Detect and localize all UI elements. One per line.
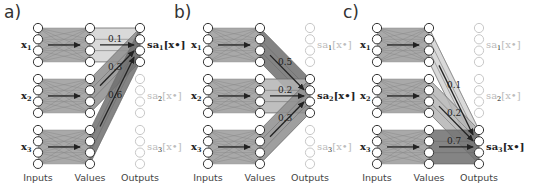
value-node bbox=[255, 125, 264, 134]
attention-weight-label: 0.7 bbox=[447, 136, 462, 146]
value-node bbox=[255, 148, 264, 157]
panel-b: b)0.50.20.3x1sa1[x•]x2sa2[x•]x3sa3[x•]In… bbox=[174, 2, 355, 183]
value-node bbox=[424, 74, 433, 83]
output-label: sa1[x•] bbox=[486, 39, 521, 52]
value-node bbox=[85, 108, 94, 117]
input-node bbox=[33, 108, 42, 117]
value-node bbox=[85, 159, 94, 168]
input-node bbox=[203, 97, 212, 106]
value-node bbox=[424, 86, 433, 95]
value-node bbox=[255, 46, 264, 55]
attention-weight-label: 0.5 bbox=[278, 57, 293, 67]
column-label: Outputs bbox=[291, 172, 329, 183]
value-node bbox=[424, 97, 433, 106]
attention-weight-label: 0.6 bbox=[108, 90, 123, 100]
input-node bbox=[372, 86, 381, 95]
panel-letter: b) bbox=[174, 2, 191, 22]
input-node bbox=[203, 125, 212, 134]
input-node bbox=[372, 57, 381, 66]
output-node bbox=[305, 46, 314, 55]
input-node bbox=[203, 46, 212, 55]
input-node bbox=[33, 86, 42, 95]
input-node bbox=[372, 97, 381, 106]
output-node bbox=[305, 125, 314, 134]
input-label: x1 bbox=[360, 39, 371, 52]
value-node bbox=[255, 108, 264, 117]
output-node bbox=[305, 86, 314, 95]
input-node bbox=[372, 159, 381, 168]
column-label: Inputs bbox=[193, 172, 223, 183]
output-node bbox=[135, 74, 144, 83]
output-node bbox=[305, 74, 314, 83]
value-node bbox=[424, 148, 433, 157]
output-label: sa3[x•] bbox=[317, 141, 352, 154]
input-node bbox=[33, 97, 42, 106]
output-node bbox=[474, 108, 483, 117]
input-node bbox=[372, 23, 381, 32]
input-label: x3 bbox=[21, 141, 32, 154]
value-node bbox=[255, 35, 264, 44]
input-node bbox=[33, 159, 42, 168]
attention-weight-label: 0.1 bbox=[447, 80, 461, 90]
value-node bbox=[255, 23, 264, 32]
input-node bbox=[33, 35, 42, 44]
output-node bbox=[474, 23, 483, 32]
value-node bbox=[424, 35, 433, 44]
output-node bbox=[305, 57, 314, 66]
input-node bbox=[33, 23, 42, 32]
value-node bbox=[255, 86, 264, 95]
value-node bbox=[85, 74, 94, 83]
input-label: x1 bbox=[191, 39, 202, 52]
output-node bbox=[305, 148, 314, 157]
output-node bbox=[474, 137, 483, 146]
input-node bbox=[33, 148, 42, 157]
column-label: Outputs bbox=[121, 172, 159, 183]
output-label: sa3[x•] bbox=[147, 141, 182, 154]
output-node bbox=[135, 159, 144, 168]
value-node bbox=[85, 23, 94, 32]
self-attention-diagram: a)0.10.30.6x1sa1[x•]x2sa2[x•]x3sa3[x•]In… bbox=[0, 0, 538, 193]
output-node bbox=[305, 97, 314, 106]
value-node bbox=[424, 46, 433, 55]
input-node bbox=[203, 148, 212, 157]
output-label: sa2[x•] bbox=[317, 90, 355, 103]
output-node bbox=[135, 108, 144, 117]
output-node bbox=[474, 97, 483, 106]
attention-weight-label: 0.2 bbox=[447, 108, 461, 118]
output-node bbox=[305, 35, 314, 44]
input-node bbox=[372, 137, 381, 146]
output-label: sa1[x•] bbox=[317, 39, 352, 52]
input-node bbox=[372, 125, 381, 134]
value-node bbox=[85, 97, 94, 106]
value-node bbox=[85, 148, 94, 157]
panel-a: a)0.10.30.6x1sa1[x•]x2sa2[x•]x3sa3[x•]In… bbox=[4, 2, 185, 183]
output-node bbox=[135, 57, 144, 66]
attention-weight-label: 0.3 bbox=[108, 62, 123, 72]
column-label: Values bbox=[413, 172, 444, 183]
input-node bbox=[203, 159, 212, 168]
output-node bbox=[474, 125, 483, 134]
value-node bbox=[424, 108, 433, 117]
output-node bbox=[135, 148, 144, 157]
value-node bbox=[424, 159, 433, 168]
attention-weight-label: 0.1 bbox=[108, 34, 122, 44]
output-label: sa1[x•] bbox=[147, 39, 185, 52]
output-node bbox=[305, 23, 314, 32]
column-label: Outputs bbox=[460, 172, 498, 183]
output-node bbox=[135, 23, 144, 32]
output-label: sa2[x•] bbox=[147, 90, 182, 103]
value-node bbox=[85, 35, 94, 44]
output-node bbox=[135, 97, 144, 106]
input-node bbox=[203, 108, 212, 117]
column-label: Inputs bbox=[362, 172, 392, 183]
output-node bbox=[305, 137, 314, 146]
input-label: x2 bbox=[360, 90, 371, 103]
output-node bbox=[474, 148, 483, 157]
output-node bbox=[135, 46, 144, 55]
value-node bbox=[85, 125, 94, 134]
output-node bbox=[474, 74, 483, 83]
attention-weight-label: 0.2 bbox=[278, 85, 292, 95]
value-node bbox=[85, 86, 94, 95]
input-node bbox=[203, 86, 212, 95]
output-node bbox=[474, 159, 483, 168]
